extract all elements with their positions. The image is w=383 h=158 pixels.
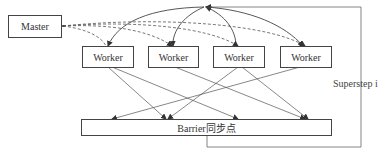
master-node: Master [8,15,62,38]
worker-node-1: Worker [82,46,134,68]
dashed-master-worker1 [63,26,106,46]
barrier-node: Barrier同步点 [81,119,332,136]
curve-top-to-worker1 [108,7,204,46]
barrier-label: Barrier同步点 [177,120,235,135]
worker-label: Worker [291,52,321,63]
worker-node-3: Worker [213,46,265,68]
dashed-master-worker3 [63,24,238,46]
curve-worker3-to-top [206,7,236,46]
master-label: Master [21,21,49,32]
worker-label: Worker [93,52,123,63]
dashed-master-worker2 [63,26,172,46]
curve-top-to-worker3 [173,7,204,46]
worker-label: Worker [224,52,254,63]
worker-node-2: Worker [148,46,199,68]
superstep-label: Superstep i [333,78,378,89]
curve-top-to-worker4 [206,7,303,46]
worker-label: Worker [159,52,189,63]
worker-node-4: Worker [280,46,332,68]
dashed-master-worker4 [63,22,305,46]
